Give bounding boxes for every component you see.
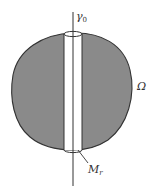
axis-label: γ0 <box>76 10 87 24</box>
region-label: Ω <box>136 80 146 93</box>
diagram-canvas: γ0 Ω Mr <box>0 0 153 194</box>
tube-label-leader <box>78 150 88 163</box>
tube-label: Mr <box>87 163 103 177</box>
